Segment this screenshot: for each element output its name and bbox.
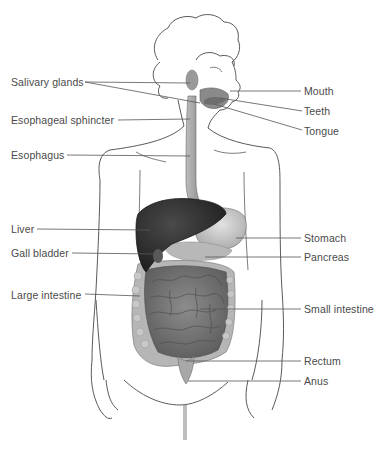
label-pancreas: Pancreas <box>304 251 349 263</box>
salivary-gland-shape <box>186 70 198 90</box>
gall-bladder-shape <box>153 249 163 263</box>
label-anus: Anus <box>304 375 328 387</box>
label-salivary-glands: Salivary glands <box>11 76 84 88</box>
head-outline <box>153 15 240 128</box>
rectum-shape <box>178 356 194 384</box>
label-esophagus: Esophagus <box>11 149 64 161</box>
label-tongue: Tongue <box>304 125 339 137</box>
label-teeth: Teeth <box>304 105 330 117</box>
label-large-intestine: Large intestine <box>11 289 81 301</box>
label-stomach: Stomach <box>304 232 346 244</box>
label-small-intestine: Small intestine <box>304 303 374 315</box>
label-gall-bladder: Gall bladder <box>11 247 69 259</box>
label-liver: Liver <box>11 223 34 235</box>
label-mouth: Mouth <box>304 85 334 97</box>
label-rectum: Rectum <box>304 355 341 367</box>
label-esophageal-sphincter: Esophageal sphincter <box>11 114 114 126</box>
